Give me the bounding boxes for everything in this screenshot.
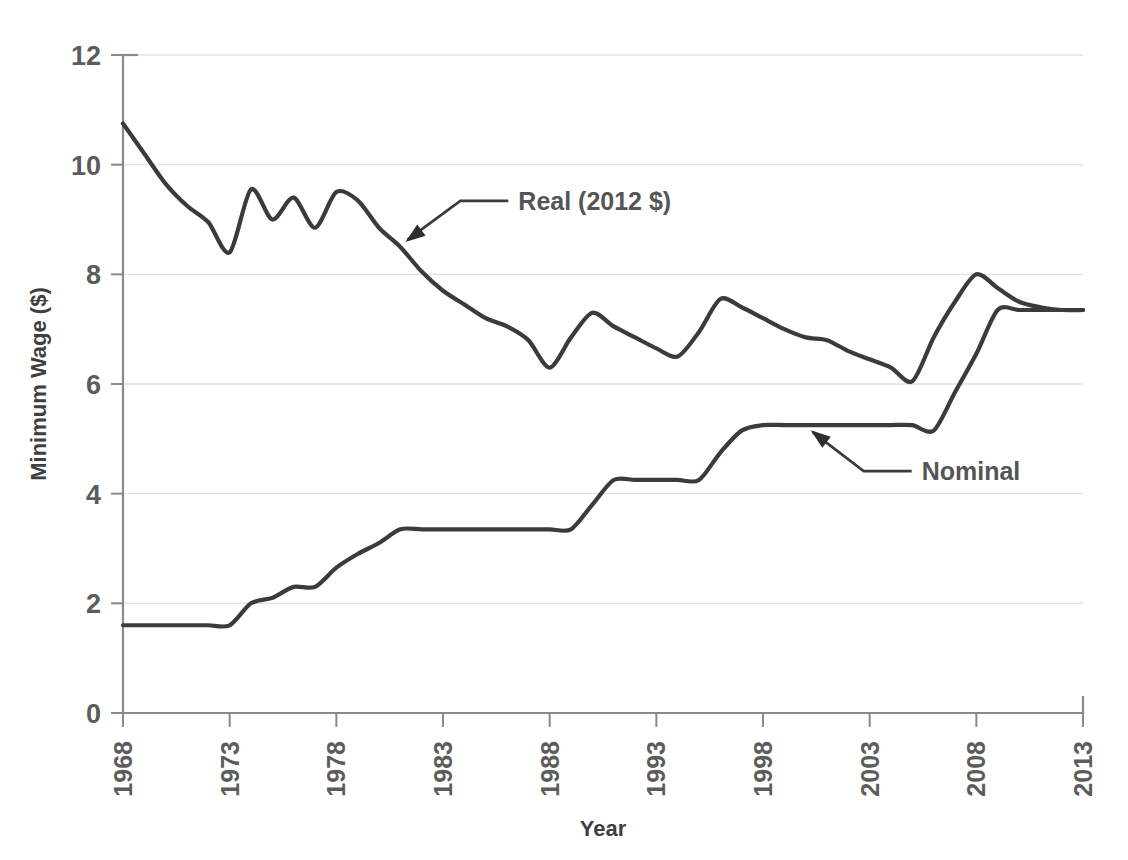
chart-canvas: 024681012 196819731978198319881993199820… <box>0 0 1128 860</box>
chart-background <box>0 0 1128 860</box>
x-tick-label: 1978 <box>322 741 350 797</box>
x-tick-label: 2003 <box>856 741 884 797</box>
y-tick-label: 8 <box>86 260 101 290</box>
y-tick-label: 4 <box>86 480 101 510</box>
x-tick-label: 1973 <box>216 741 244 797</box>
minimum-wage-chart: 024681012 196819731978198319881993199820… <box>0 0 1128 860</box>
x-tick-label: 1993 <box>642 741 670 797</box>
x-tick-label: 1998 <box>749 741 777 797</box>
y-tick-label: 2 <box>86 589 101 619</box>
x-tick-label: 1988 <box>536 741 564 797</box>
x-tick-label: 1983 <box>429 741 457 797</box>
y-tick-label: 6 <box>86 370 101 400</box>
x-tick-label: 1968 <box>109 741 137 797</box>
y-axis-title: Minimum Wage ($) <box>26 287 51 481</box>
y-tick-label: 12 <box>71 41 101 71</box>
y-tick-label: 10 <box>71 151 101 181</box>
y-tick-label: 0 <box>86 699 101 729</box>
x-axis-title: Year <box>580 816 627 841</box>
annotation-label: Real (2012 $) <box>518 187 671 215</box>
annotation-label: Nominal <box>922 457 1021 485</box>
x-tick-label: 2008 <box>962 741 990 797</box>
x-tick-label: 2013 <box>1069 741 1097 797</box>
